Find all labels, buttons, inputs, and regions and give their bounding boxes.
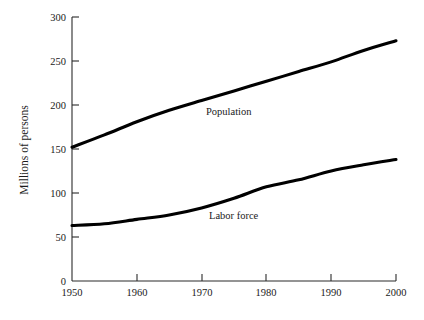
y-tick-label-100: 100 [50, 188, 66, 199]
y-tick-label-200: 200 [50, 100, 66, 111]
x-tick-marks [137, 274, 396, 281]
x-tick-label-1950: 1950 [62, 287, 83, 298]
x-tick-label-1960: 1960 [127, 287, 148, 298]
y-tick-marks [72, 17, 79, 237]
x-tick-label-2000: 2000 [386, 287, 407, 298]
x-tick-label-1990: 1990 [321, 287, 342, 298]
y-tick-label-0: 0 [61, 276, 66, 287]
x-tick-label-1970: 1970 [192, 287, 213, 298]
line-chart: 300 250 200 150 100 50 0 1950 1960 1970 … [0, 0, 424, 320]
population-line [72, 41, 396, 147]
chart-canvas: 300 250 200 150 100 50 0 1950 1960 1970 … [0, 0, 424, 320]
y-axis-title: Millions of persons [18, 105, 31, 195]
y-tick-label-50: 50 [56, 232, 67, 243]
y-tick-label-300: 300 [50, 12, 66, 23]
y-tick-label-250: 250 [50, 56, 66, 67]
series-label-population: Population [206, 106, 252, 117]
series-label-labor-force: Labor force [209, 210, 259, 221]
x-tick-label-1980: 1980 [256, 287, 277, 298]
y-tick-label-150: 150 [50, 144, 66, 155]
